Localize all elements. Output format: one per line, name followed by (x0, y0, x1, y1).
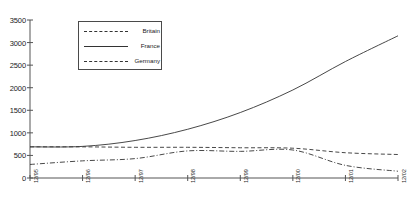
legend-label-germany: Germany (135, 57, 160, 64)
x-tick-label: 12/02 (401, 169, 407, 183)
legend: Britain France Germany (78, 21, 162, 70)
legend-label-france: France (141, 42, 160, 49)
y-tick-label: 2000 (0, 84, 26, 93)
x-tick-label: 12/96 (85, 169, 91, 183)
x-tick-label: 12/95 (33, 169, 39, 183)
legend-swatch-germany (84, 61, 128, 62)
y-tick-label: 0 (0, 174, 26, 183)
legend-item-britain: Britain (79, 25, 163, 39)
legend-item-germany: Germany (79, 55, 163, 69)
y-tick-label: 1500 (0, 106, 26, 115)
x-tick-label: 12/00 (295, 169, 301, 183)
y-tick-label: 3500 (0, 16, 26, 25)
legend-swatch-britain (84, 31, 128, 32)
y-tick-label: 500 (0, 151, 26, 160)
y-tick-label: 1000 (0, 129, 26, 138)
y-tick-label: 2500 (0, 61, 26, 70)
plot-area (0, 0, 407, 208)
x-tick-label: 12/98 (190, 169, 196, 183)
x-tick-label: 12/01 (348, 169, 354, 183)
legend-swatch-france (84, 46, 128, 47)
legend-item-france: France (79, 40, 163, 54)
x-tick-label: 12/97 (138, 169, 144, 183)
line-chart: 0500100015002000250030003500 12/9512/961… (0, 0, 407, 208)
y-tick-label: 3000 (0, 39, 26, 48)
legend-label-britain: Britain (142, 27, 160, 34)
x-tick-label: 12/99 (243, 169, 249, 183)
